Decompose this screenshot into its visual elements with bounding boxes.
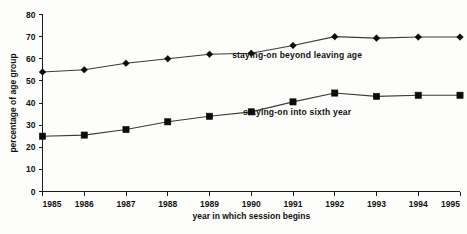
data-point-square xyxy=(290,99,296,105)
data-point-diamond xyxy=(123,60,130,67)
data-point-diamond xyxy=(290,42,297,49)
x-tick-label: 1993 xyxy=(367,199,386,209)
data-point-square xyxy=(415,92,421,98)
y-axis-title: percentage of age group xyxy=(8,53,18,152)
y-tick-label: 70 xyxy=(26,32,36,42)
x-tick-label: 1985 xyxy=(43,199,62,209)
y-axis-tick-marks xyxy=(39,15,43,192)
y-tick-label: 80 xyxy=(26,10,36,20)
data-point-diamond xyxy=(39,69,46,76)
series-inline-labels: staying-on beyond leaving agestaying-on … xyxy=(232,50,362,118)
y-axis-tick-labels: 01020304050607080 xyxy=(26,10,36,197)
data-point-square xyxy=(165,119,171,125)
x-tick-label: 1988 xyxy=(158,199,177,209)
x-axis-tick-marks xyxy=(43,192,461,196)
data-point-square xyxy=(373,93,379,99)
y-tick-label: 60 xyxy=(26,54,36,64)
y-tick-label: 10 xyxy=(26,164,36,174)
x-axis-title: year in which session begins xyxy=(192,211,310,221)
data-point-diamond xyxy=(373,35,380,42)
data-point-diamond xyxy=(164,55,171,62)
x-tick-label: 1986 xyxy=(75,199,94,209)
y-tick-label: 20 xyxy=(26,142,36,152)
line-chart: 01020304050607080 1985198619871988198919… xyxy=(0,0,467,234)
x-tick-label: 1994 xyxy=(409,199,428,209)
y-tick-label: 0 xyxy=(31,187,36,197)
data-point-diamond xyxy=(415,34,422,41)
data-point-diamond xyxy=(457,34,464,41)
x-tick-label: 1990 xyxy=(242,199,261,209)
chart-plot-area: 01020304050607080 1985198619871988198919… xyxy=(0,0,467,234)
data-point-square xyxy=(457,92,463,98)
data-point-diamond xyxy=(81,67,88,74)
data-point-square xyxy=(81,132,87,138)
y-tick-label: 40 xyxy=(26,98,36,108)
y-tick-label: 30 xyxy=(26,120,36,130)
y-tick-label: 50 xyxy=(26,76,36,86)
x-tick-label: 1995 xyxy=(441,199,460,209)
data-point-square xyxy=(206,113,212,119)
x-tick-label: 1992 xyxy=(325,199,344,209)
data-point-square xyxy=(39,133,45,139)
data-point-diamond xyxy=(206,51,213,58)
x-tick-label: 1989 xyxy=(200,199,219,209)
data-point-diamond xyxy=(331,33,338,40)
series-label: staying-on beyond leaving age xyxy=(232,50,362,60)
x-tick-label: 1991 xyxy=(284,199,303,209)
data-point-square xyxy=(123,126,129,132)
data-point-square xyxy=(332,90,338,96)
x-axis-tick-labels: 1985198619871988198919901991199219931994… xyxy=(43,199,461,209)
series-label: staying-on into sixth year xyxy=(243,107,352,117)
x-tick-label: 1987 xyxy=(117,199,136,209)
